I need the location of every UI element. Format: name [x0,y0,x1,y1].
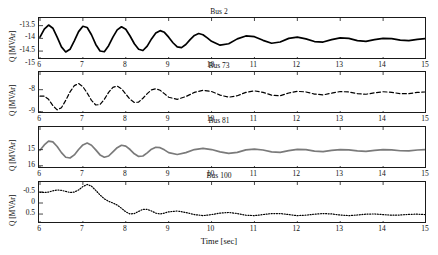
x-tick-label: 8 [116,169,134,178]
plot-area [38,126,426,168]
series-line [39,127,426,168]
y-axis-label: Q [MVAr] [8,195,17,226]
x-tick-label: 12 [287,224,305,233]
figure: Bus 2Q [MVAr]-13.5-14-14.5-1567891011121… [0,0,438,255]
x-tick-label: 6 [30,224,48,233]
x-tick-label: 15 [416,169,434,178]
series-line [39,182,426,223]
x-axis-label: Time [sec] [0,236,438,246]
x-tick-label: 15 [416,114,434,123]
x-tick-label: 12 [287,114,305,123]
y-tick-label: -0.5 [1,186,35,195]
chart-panel: Bus 81Q [MVAr]16156789101112131415 [0,0,438,255]
panel-title: Bus 2 [0,8,438,16]
chart-panel: Bus 100Q [MVAr]0.50-0.56789101112131415 [0,0,438,255]
x-tick-label: 15 [416,60,434,69]
x-tick-label: 11 [244,224,262,233]
x-tick-label: 7 [73,169,91,178]
y-tick-label: -13.5 [1,20,35,29]
x-tick-label: 9 [159,60,177,69]
x-tick-label: 13 [330,169,348,178]
chart-panel: Bus 2Q [MVAr]-13.5-14-14.5-1567891011121… [0,0,438,255]
x-tick-label: 6 [30,60,48,69]
panel-title: Bus 81 [0,117,438,125]
x-tick-label: 13 [330,60,348,69]
series-line [39,72,426,113]
panel-title: Bus 73 [0,62,438,70]
x-tick-label: 15 [416,224,434,233]
x-tick-label: 6 [30,169,48,178]
x-tick-label: 11 [244,169,262,178]
x-tick-label: 12 [287,169,305,178]
x-tick-label: 9 [159,169,177,178]
panel-title: Bus 100 [0,172,438,180]
x-tick-label: 10 [202,169,220,178]
y-tick-label: -14.5 [1,45,35,54]
x-tick-label: 7 [73,60,91,69]
x-tick-label: 8 [116,224,134,233]
x-tick-label: 13 [330,224,348,233]
x-tick-label: 13 [330,114,348,123]
x-tick-label: 7 [73,224,91,233]
plot-area [38,181,426,223]
x-tick-label: 12 [287,60,305,69]
y-axis-label: Q [MVAr] [8,31,17,62]
y-axis-label: Q [MVAr] [8,140,17,171]
x-tick-label: 8 [116,114,134,123]
x-tick-label: 8 [116,60,134,69]
x-tick-label: 10 [202,224,220,233]
x-tick-label: 14 [373,224,391,233]
y-tick-label: 15 [1,144,35,153]
x-tick-label: 10 [202,114,220,123]
x-tick-label: 10 [202,60,220,69]
y-axis-label: Q [MVAr] [8,85,17,116]
y-tick-label: -9 [1,106,35,115]
x-tick-label: 9 [159,114,177,123]
series-line [39,18,426,59]
x-tick-label: 14 [373,60,391,69]
y-tick-label: 0.5 [1,208,35,217]
x-tick-label: 7 [73,114,91,123]
x-tick-label: 11 [244,114,262,123]
y-tick-label: -15 [1,58,35,67]
plot-area [38,17,426,59]
x-tick-label: 14 [373,169,391,178]
y-tick-label: -14 [1,32,35,41]
y-tick-label: 0 [1,197,35,206]
x-tick-label: 9 [159,224,177,233]
x-tick-label: 14 [373,114,391,123]
chart-panel: Bus 73Q [MVAr]-8-96789101112131415 [0,0,438,255]
plot-area [38,71,426,113]
y-tick-label: 16 [1,160,35,169]
y-tick-label: -8 [1,84,35,93]
x-tick-label: 6 [30,114,48,123]
x-tick-label: 11 [244,60,262,69]
